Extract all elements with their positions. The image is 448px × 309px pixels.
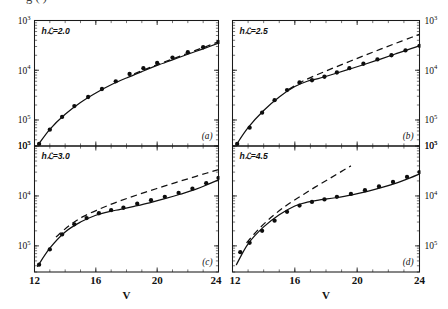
figure-root: g ( ) hℒ=2.0(a)hℒ=2.5(b)hℒ=3.0(c)hℒ=4.5(…: [0, 0, 448, 309]
panel-letter: (d): [403, 257, 414, 268]
solid-curve: [38, 180, 219, 266]
solid-curve: [236, 174, 419, 265]
y-axis-tick-label: 104: [18, 189, 32, 201]
panel-frame-a: [35, 21, 219, 147]
panel-letter: (a): [202, 131, 213, 142]
x-axis-tick-label: 12: [29, 274, 41, 286]
y-axis-tick-label: 104: [18, 63, 32, 75]
panel-parameter-label: hℒ=2.5: [240, 26, 268, 36]
y-axis-tick-label: 105: [18, 239, 32, 251]
panel-parameter-label: hℒ=3.0: [42, 151, 70, 161]
panel-parameter-label: hℒ=2.0: [42, 26, 70, 36]
x-axis-tick-label: 20: [352, 274, 364, 286]
x-axis-label: V: [322, 289, 330, 301]
panel-frame-c: [35, 146, 219, 272]
y-axis-tick-label: 103: [18, 14, 32, 26]
panel-parameter-label: hℒ=4.5: [240, 151, 268, 161]
solid-curve: [236, 46, 419, 145]
y-axis-tick-label: 105: [425, 139, 439, 151]
panel-frame-b: [233, 21, 420, 147]
x-axis-label: V: [123, 289, 131, 301]
x-axis-tick-label: 16: [289, 274, 301, 286]
y-axis-tick-label: 103: [425, 14, 439, 26]
x-axis-tick-label: 16: [90, 274, 102, 286]
y-axis-tick-label: 105: [18, 139, 32, 151]
x-axis-tick-label: 24: [211, 274, 223, 286]
y-axis-tick-label: 105: [18, 113, 32, 125]
y-axis-tick-label: 104: [425, 63, 439, 75]
panel-letter: (c): [202, 257, 212, 268]
dashed-curve: [134, 42, 218, 74]
solid-curve: [38, 43, 218, 144]
x-axis-tick-label: 24: [414, 274, 426, 286]
y-axis-tick-label: 104: [425, 189, 439, 201]
y-axis-tick-label: 105: [425, 239, 439, 251]
panel-letter: (b): [403, 131, 414, 142]
y-axis-tick-label: 105: [425, 113, 439, 125]
x-axis-tick-label: 12: [230, 274, 242, 286]
four-panel-plot: hℒ=2.0(a)hℒ=2.5(b)hℒ=3.0(c)hℒ=4.5(d)1051…: [0, 0, 448, 309]
x-axis-tick-label: 20: [152, 274, 164, 286]
panel-frame-d: [233, 146, 420, 272]
